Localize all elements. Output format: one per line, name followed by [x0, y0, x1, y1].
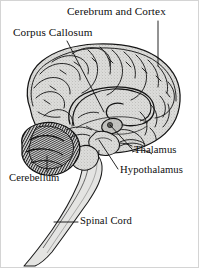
label-hypothalamus: Hypothalamus [120, 165, 183, 176]
label-spinal-cord: Spinal Cord [80, 216, 132, 227]
label-cerebrum-and-cortex: Cerebrum and Cortex [67, 6, 166, 17]
brain-diagram-figure [0, 0, 199, 268]
label-cerebellum: Cerebellum [9, 173, 59, 184]
label-thalamus: Thalamus [134, 145, 177, 156]
label-corpus-callosum: Corpus Callosum [13, 27, 93, 38]
cerebellum-shape [22, 122, 80, 175]
brain-illustration [0, 0, 199, 268]
